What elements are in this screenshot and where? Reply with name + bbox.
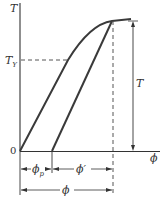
- total-t-label: T: [136, 78, 143, 89]
- t-arrow-top: [131, 21, 135, 27]
- total-strain-label: ϕ: [62, 185, 70, 196]
- t-arrow-bottom: [131, 145, 135, 151]
- elastic-strain-label: ϕ′: [76, 164, 86, 175]
- yield-label: TY: [5, 55, 17, 69]
- plastic-strain-label: ϕp: [32, 164, 44, 178]
- y-axis-label: T: [10, 3, 17, 14]
- x-axis-label: ϕ: [150, 153, 158, 164]
- loading-curve: [20, 19, 131, 151]
- origin-label: 0: [10, 146, 16, 156]
